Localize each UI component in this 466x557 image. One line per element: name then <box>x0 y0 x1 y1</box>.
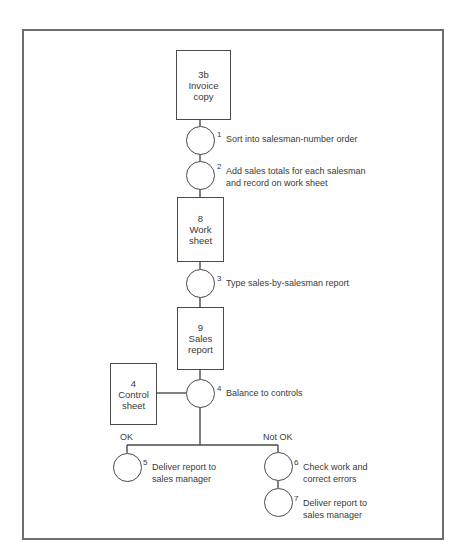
step-number: 5 <box>143 457 147 469</box>
document-control-sheet: 4 Control sheet <box>110 363 157 425</box>
step-number: 1 <box>217 129 221 141</box>
process-circle-4 <box>186 379 215 408</box>
document-number: 9 <box>198 322 203 333</box>
step-number: 4 <box>217 383 221 395</box>
document-label-line2: report <box>188 344 213 355</box>
document-label-line2: sheet <box>122 400 145 411</box>
step-label-3: 3 Type sales-by-salesman report <box>217 277 349 289</box>
step-label-7: 7 Deliver report to sales manager <box>294 497 367 521</box>
document-label-line1: Work <box>190 224 212 235</box>
document-number: 3b <box>198 69 209 80</box>
document-invoice-copy: 3b Invoice copy <box>176 50 231 120</box>
step-label-1: 1 Sort into salesman-number order <box>217 133 358 145</box>
process-circle-5 <box>113 453 142 482</box>
process-circle-2 <box>186 161 215 190</box>
document-sales-report: 9 Sales report <box>177 307 224 370</box>
process-circle-6 <box>264 452 293 481</box>
step-text-line1: Type sales-by-salesman report <box>226 277 349 289</box>
process-circle-7 <box>264 488 293 517</box>
document-work-sheet: 8 Work sheet <box>177 197 224 262</box>
step-text-line2: sales manager <box>152 473 216 485</box>
step-text-line1: Sort into salesman-number order <box>226 133 358 145</box>
step-number: 6 <box>294 457 298 469</box>
step-text-line1: Add sales totals for each salesman <box>226 165 366 177</box>
document-number: 8 <box>198 213 203 224</box>
step-text-line1: Check work and <box>303 461 368 473</box>
step-text-line1: Deliver report to <box>303 497 367 509</box>
step-label-2: 2 Add sales totals for each salesman and… <box>217 165 366 189</box>
step-label-5: 5 Deliver report to sales manager <box>143 461 216 485</box>
step-text-line1: Deliver report to <box>152 461 216 473</box>
step-number: 3 <box>217 273 221 285</box>
step-text-line2: sales manager <box>303 509 367 521</box>
branch-label-not-ok: Not OK <box>263 432 293 442</box>
document-number: 4 <box>131 378 136 389</box>
document-label-line1: Sales <box>189 333 213 344</box>
step-label-6: 6 Check work and correct errors <box>294 461 368 485</box>
document-label-line2: sheet <box>189 235 212 246</box>
step-text-line1: Balance to controls <box>226 387 303 399</box>
step-number: 2 <box>217 161 221 173</box>
step-text-line2: and record on work sheet <box>226 177 366 189</box>
process-circle-1 <box>186 126 215 155</box>
document-label-line1: Invoice <box>188 80 218 91</box>
process-circle-3 <box>186 269 215 298</box>
document-label-line2: copy <box>193 91 213 102</box>
branch-label-ok: OK <box>120 432 133 442</box>
step-text-line2: correct errors <box>303 473 368 485</box>
step-number: 7 <box>294 493 298 505</box>
step-label-4: 4 Balance to controls <box>217 387 303 399</box>
document-label-line1: Control <box>118 389 149 400</box>
